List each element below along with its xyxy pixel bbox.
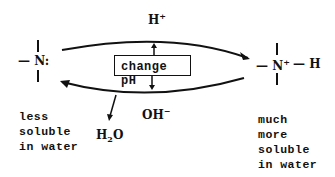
change-ph-box: change pH	[114, 55, 191, 76]
oh-minus-label: OH−	[142, 107, 171, 121]
left-solubility-note: less soluble in water	[19, 109, 78, 154]
ammonium-right: — N+	[256, 58, 290, 72]
water-label: H2O	[96, 129, 123, 143]
ammonium-h: — H	[293, 58, 321, 70]
diagram: H+ — N: change pH — N+ — H OH− H2O less …	[0, 0, 335, 177]
right-solubility-note: much more soluble in water	[258, 112, 317, 172]
amine-left: — N:	[18, 55, 49, 67]
h-plus-label: H+	[148, 12, 166, 26]
